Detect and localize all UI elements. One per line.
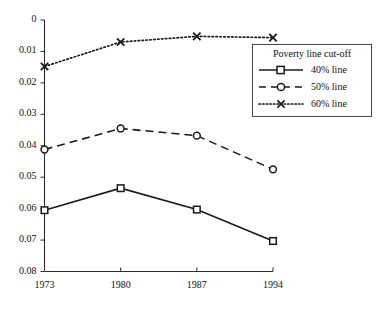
x-tick-label: 1980	[96, 279, 146, 290]
legend-item-50[interactable]: 50% line	[257, 78, 367, 95]
y-tick-label: 0.02	[0, 76, 37, 87]
legend: Poverty line cut-off 40% line 50% line 6…	[252, 44, 372, 117]
data-point-marker	[41, 146, 48, 153]
y-tick-label: 0.06	[0, 202, 37, 213]
series-line	[45, 36, 274, 66]
legend-swatch-dashed-circle-icon	[257, 80, 305, 94]
legend-item-60[interactable]: 60% line	[257, 95, 367, 112]
y-tick-label: 0.03	[0, 107, 37, 118]
y-tick-label: 0.07	[0, 233, 37, 244]
series-40-line	[41, 185, 276, 244]
series-line	[45, 128, 274, 169]
y-tick-label: 0	[0, 13, 37, 24]
y-tick-label: 0.04	[0, 139, 37, 150]
data-point-marker	[270, 238, 277, 245]
legend-label-50: 50% line	[305, 81, 347, 92]
legend-title: Poverty line cut-off	[257, 48, 367, 61]
y-tick-label: 0.08	[0, 265, 37, 276]
axis-lines	[45, 20, 274, 272]
data-point-marker	[117, 125, 124, 132]
x-tick-label: 1994	[248, 279, 298, 290]
legend-item-40[interactable]: 40% line	[257, 61, 367, 78]
data-point-marker	[117, 185, 124, 192]
y-tick-label: 0.05	[0, 170, 37, 181]
data-point-marker	[41, 207, 48, 214]
x-tick-label: 1987	[172, 279, 222, 290]
legend-label-40: 40% line	[305, 64, 347, 75]
data-point-marker	[194, 206, 201, 213]
series-60-line	[41, 33, 277, 71]
series-line	[45, 188, 274, 241]
x-tick-marks	[121, 268, 273, 272]
x-tick-label: 1973	[20, 279, 70, 290]
data-series-group	[41, 33, 277, 245]
y-tick-label: 0.01	[0, 44, 37, 55]
line-chart: 0.080.070.060.050.040.030.020.010 197319…	[0, 0, 378, 311]
legend-swatch-solid-square-icon	[257, 63, 305, 77]
legend-label-60: 60% line	[305, 98, 347, 109]
series-50-line	[41, 125, 276, 173]
data-point-marker	[193, 132, 200, 139]
legend-swatch-dotted-cross-icon	[257, 97, 305, 111]
data-point-marker	[270, 166, 277, 173]
